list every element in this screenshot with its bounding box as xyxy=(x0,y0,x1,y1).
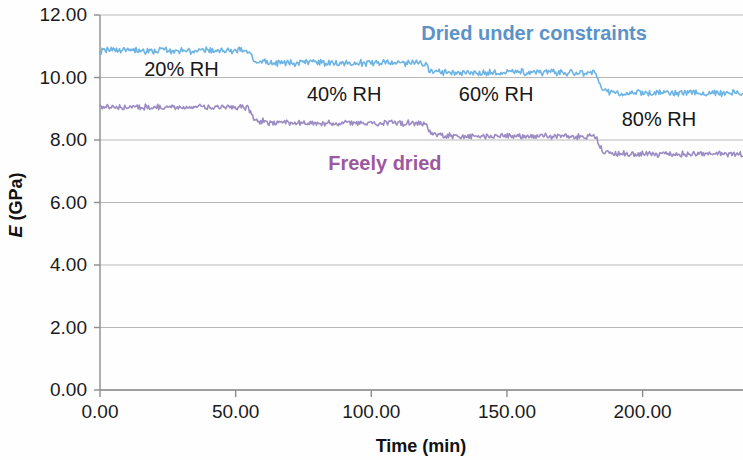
y-tick-label: 12.00 xyxy=(39,4,87,25)
y-tick-label: 4.00 xyxy=(50,254,87,275)
series-label-annotation: Dried under constraints xyxy=(421,22,647,44)
y-axis-title: E (GPa) xyxy=(6,172,26,237)
x-tick-label: 50.00 xyxy=(212,401,260,422)
x-axis-title: Time (min) xyxy=(376,436,467,456)
x-axis xyxy=(100,390,743,397)
x-tick-label: 0.00 xyxy=(82,401,119,422)
y-tick-label: 2.00 xyxy=(50,317,87,338)
x-tick-label: 100.00 xyxy=(342,401,400,422)
x-tick-labels: 0.0050.00100.00150.00200.00 xyxy=(82,401,672,422)
humidity-step-annotation: 80% RH xyxy=(622,108,696,130)
chart-figure: 0.002.004.006.008.0010.0012.00 0.0050.00… xyxy=(0,0,743,460)
humidity-step-annotation: 60% RH xyxy=(459,83,533,105)
x-tick-label: 200.00 xyxy=(614,401,672,422)
x-tick-label: 150.00 xyxy=(478,401,536,422)
y-tick-label: 6.00 xyxy=(50,192,87,213)
y-axis-title-unit: (GPa) xyxy=(6,172,26,225)
y-tick-label: 8.00 xyxy=(50,129,87,150)
chart-canvas: 0.002.004.006.008.0010.0012.00 0.0050.00… xyxy=(0,0,743,460)
y-tick-label: 0.00 xyxy=(50,379,87,400)
y-tick-labels: 0.002.004.006.008.0010.0012.00 xyxy=(39,4,87,400)
y-axis xyxy=(94,15,100,390)
y-tick-label: 10.00 xyxy=(39,67,87,88)
humidity-step-annotation: 40% RH xyxy=(307,83,381,105)
annotations: 20% RH40% RH60% RH80% RHDried under cons… xyxy=(144,22,696,174)
series-label-annotation: Freely dried xyxy=(328,152,441,174)
humidity-step-annotation: 20% RH xyxy=(144,58,218,80)
